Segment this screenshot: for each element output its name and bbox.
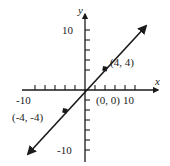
y-tick-label-neg10: -10 [57,145,72,156]
x-tick-label-10: 10 [123,95,134,106]
data-point-neg4-neg4 [62,108,67,113]
data-point-4-4 [102,66,107,71]
point-label-4-4: (4, 4) [110,57,134,68]
point-label-neg4-neg4: (-4, -4) [12,112,43,123]
y-tick-label-10: 10 [62,25,73,36]
graph-canvas [0,0,170,166]
y-axis-label: y [78,5,83,16]
point-label-origin: (0, 0) [96,95,120,106]
x-tick-label-neg10: -10 [16,95,31,106]
x-axis-label: x [155,76,160,87]
coordinate-graph-figure: y x 10 -10 -10 10 (4, 4) (0, 0) (-4, -4) [0,0,170,166]
